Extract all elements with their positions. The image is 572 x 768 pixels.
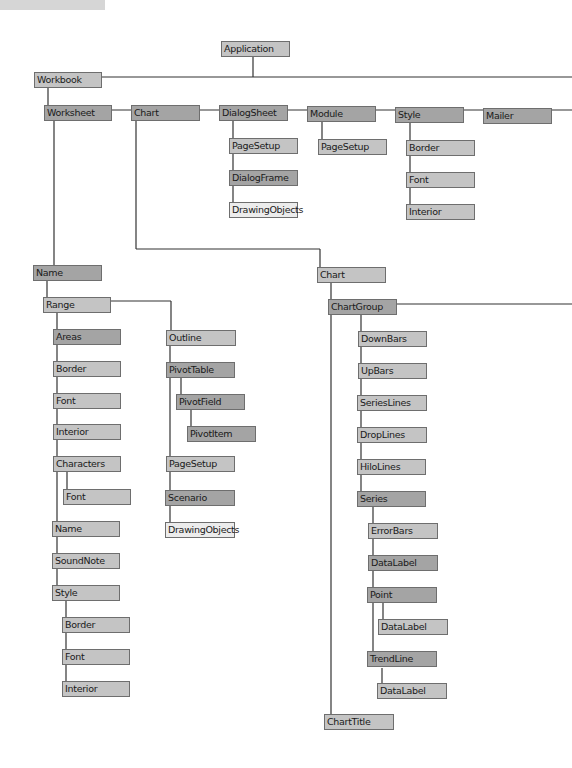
node-application: Application (221, 41, 290, 57)
node-droplines: DropLines (357, 427, 427, 443)
node-characters: Characters (53, 456, 121, 472)
node-worksheet: Worksheet (44, 105, 112, 121)
node-trendline: TrendLine (367, 651, 437, 667)
node-pivottable: PivotTable (166, 362, 235, 378)
node-dialogframe: DialogFrame (229, 170, 298, 186)
node-dialogsheet-drawingobjects: DrawingObjects (229, 202, 298, 218)
node-pivotitem: PivotItem (187, 426, 256, 442)
node-mailer: Mailer (483, 108, 552, 124)
node-dialogsheet-pagesetup: PageSetup (229, 138, 298, 154)
node-module-pagesetup: PageSetup (318, 139, 387, 155)
node-name: Name (33, 265, 102, 281)
node-range-border: Border (53, 361, 121, 377)
node-areas: Areas (53, 329, 121, 345)
node-point-datalabel: DataLabel (378, 619, 448, 635)
node-upbars: UpBars (358, 363, 427, 379)
node-trendline-datalabel: DataLabel (377, 683, 447, 699)
node-downbars: DownBars (358, 331, 427, 347)
node-style-top: Style (395, 107, 464, 123)
node-scenario: Scenario (165, 490, 235, 506)
node-range: Range (43, 297, 111, 313)
node-dialogsheet: DialogSheet (219, 105, 288, 121)
node-point: Point (367, 587, 437, 603)
node-hilolines: HiloLines (357, 459, 426, 475)
node-range-style-font: Font (62, 649, 130, 665)
node-serieslines: SeriesLines (357, 395, 427, 411)
node-series-datalabel: DataLabel (368, 555, 438, 571)
node-module: Module (307, 106, 376, 122)
node-chartgroup: ChartGroup (328, 299, 397, 315)
node-range-font: Font (53, 393, 121, 409)
node-chart: Chart (317, 267, 386, 283)
node-range-name: Name (52, 521, 120, 537)
node-chart-top: Chart (131, 105, 200, 121)
node-errorbars: ErrorBars (368, 523, 438, 539)
node-range-style-interior: Interior (62, 681, 130, 697)
node-style-top-font: Font (406, 172, 475, 188)
node-outline: Outline (166, 330, 236, 346)
node-range-style: Style (52, 585, 120, 601)
node-workbook: Workbook (34, 72, 102, 88)
node-style-top-interior: Interior (406, 204, 475, 220)
node-range-interior: Interior (53, 424, 121, 440)
node-series: Series (357, 491, 426, 507)
node-worksheet-drawingobjects: DrawingObjects (165, 522, 235, 538)
node-worksheet-pagesetup: PageSetup (166, 456, 235, 472)
node-pivotfield: PivotField (176, 394, 245, 410)
node-characters-font: Font (63, 489, 131, 505)
node-style-top-border: Border (406, 140, 475, 156)
node-charttitle: ChartTitle (324, 714, 394, 730)
node-soundnote: SoundNote (52, 553, 120, 569)
node-range-style-border: Border (62, 617, 130, 633)
